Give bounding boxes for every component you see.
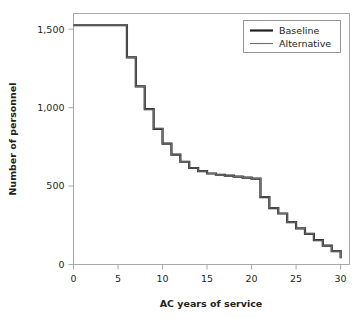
y-tick-label: 1,500 [37,24,64,35]
x-tick-label: 0 [70,273,76,284]
y-tick-label: 500 [46,180,64,191]
y-axis-title: Number of personnel [7,82,18,195]
x-tick-label: 15 [201,273,213,284]
legend-label-baseline: Baseline [279,25,319,36]
y-tick-label: 0 [58,259,64,270]
x-tick-label: 5 [115,273,121,284]
chart-figure: 05001,0001,500 Number of personnel 05101… [0,0,360,318]
legend-label-alternative: Alternative [279,38,331,49]
y-tick-label: 1,000 [37,102,64,113]
x-tick-label: 30 [335,273,347,284]
x-tick-label: 25 [290,273,302,284]
x-tick-label: 10 [156,273,168,284]
x-tick-label: 20 [246,273,258,284]
x-axis-title: AC years of service [160,298,263,309]
chart-legend: BaselineAlternative [244,21,341,53]
personnel-step-chart: 05001,0001,500 Number of personnel 05101… [0,0,360,318]
